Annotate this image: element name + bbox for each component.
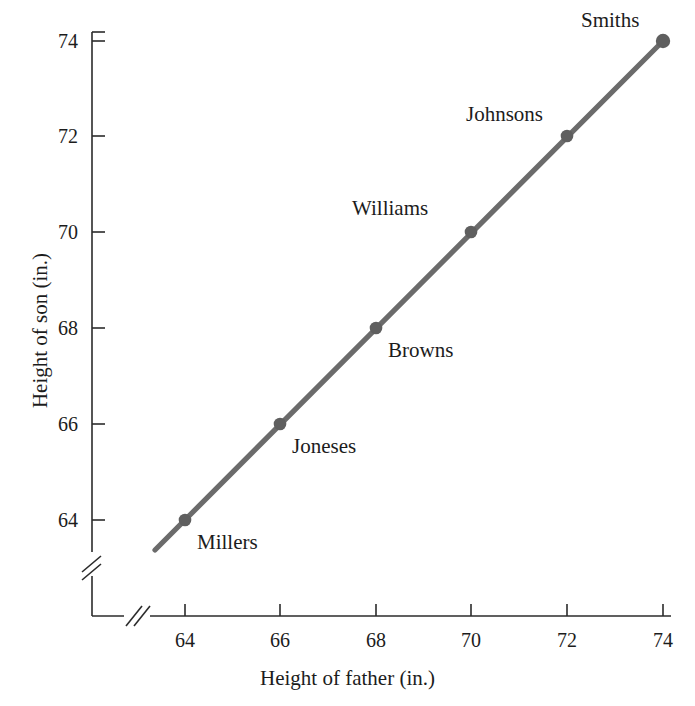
y-axis-ticks bbox=[92, 32, 105, 520]
data-point-johnsons bbox=[561, 130, 574, 143]
y-tick-label-72: 72 bbox=[40, 126, 78, 146]
point-label-joneses: Joneses bbox=[292, 436, 356, 457]
chart-container: 74 72 70 68 66 64 64 66 68 70 72 74 Mill… bbox=[0, 0, 695, 706]
point-label-williams: Williams bbox=[352, 198, 428, 219]
point-label-smiths: Smiths bbox=[581, 10, 639, 31]
y-tick-label-64: 64 bbox=[40, 510, 78, 530]
x-axis-title: Height of father (in.) bbox=[0, 668, 695, 689]
point-label-millers: Millers bbox=[197, 532, 258, 553]
y-axis-title: Height of son (in.) bbox=[30, 201, 51, 461]
x-tick-label-70: 70 bbox=[461, 630, 481, 650]
point-label-johnsons: Johnsons bbox=[466, 104, 543, 125]
y-axis-break-icon bbox=[82, 552, 101, 580]
data-point-browns bbox=[370, 322, 383, 335]
point-label-browns: Browns bbox=[388, 340, 453, 361]
x-axis-ticks bbox=[185, 604, 663, 616]
x-tick-label-64: 64 bbox=[175, 630, 195, 650]
x-tick-label-74: 74 bbox=[653, 630, 673, 650]
chart-canvas bbox=[0, 0, 695, 706]
data-point-smiths bbox=[656, 34, 670, 48]
x-tick-label-68: 68 bbox=[366, 630, 386, 650]
x-tick-label-72: 72 bbox=[557, 630, 577, 650]
x-axis-break-icon bbox=[124, 606, 150, 626]
data-point-joneses bbox=[274, 418, 287, 431]
data-point-williams bbox=[465, 226, 478, 239]
x-tick-label-66: 66 bbox=[270, 630, 290, 650]
y-tick-label-74: 74 bbox=[40, 31, 78, 51]
data-point-millers bbox=[179, 514, 192, 527]
data-series-line bbox=[155, 41, 663, 550]
